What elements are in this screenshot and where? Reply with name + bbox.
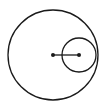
large-circle-center-point bbox=[51, 53, 55, 57]
small-circle-center-point bbox=[77, 53, 81, 57]
circles-diagram bbox=[0, 0, 109, 110]
